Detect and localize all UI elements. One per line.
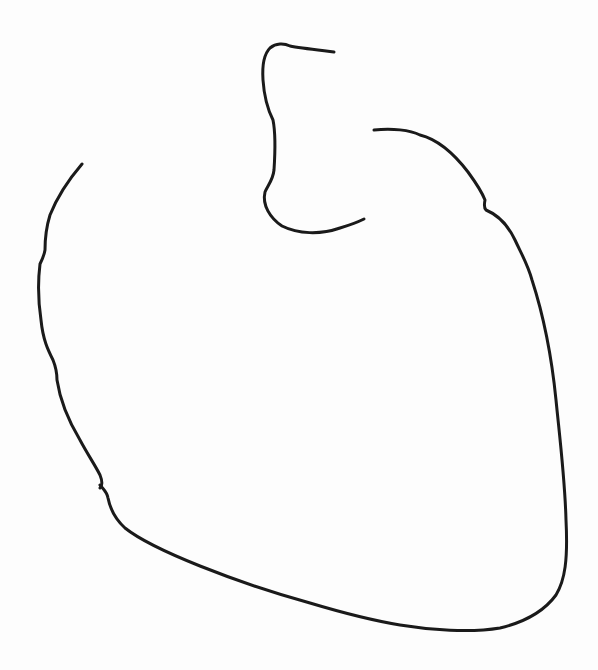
vessel-outline-stroke [263,44,364,233]
left-contour-stroke [39,164,102,488]
right-contour-stroke [100,129,567,630]
heart-sketch-drawing [0,0,598,670]
stroke-group [39,44,567,631]
sketch-canvas [0,0,598,670]
